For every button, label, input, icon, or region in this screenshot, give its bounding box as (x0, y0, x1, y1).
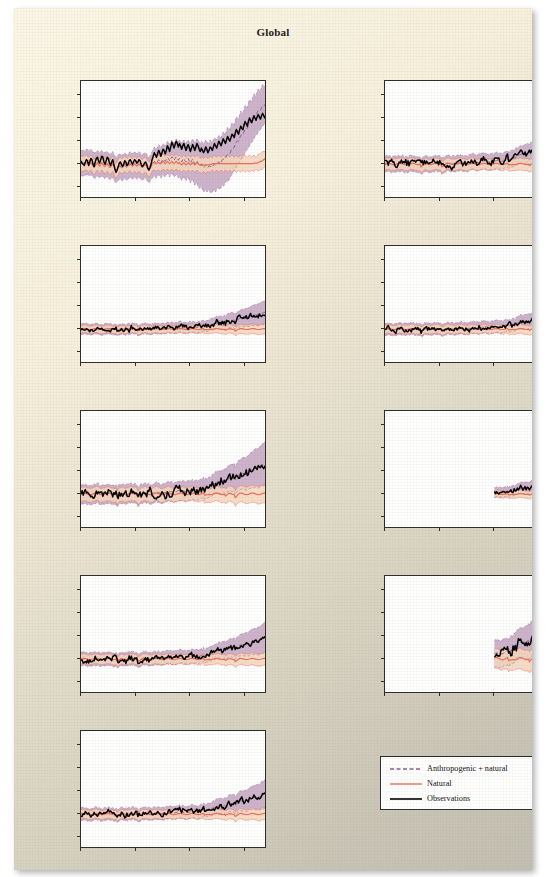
y-tick-mark (381, 658, 384, 659)
y-tick-mark (77, 282, 80, 283)
y-tick-mark (381, 351, 384, 352)
x-tick-mark (189, 528, 190, 531)
legend-swatch-solid (389, 779, 423, 788)
y-tick-mark (77, 351, 80, 352)
x-tick-mark (439, 528, 440, 531)
y-tick-mark (77, 447, 80, 448)
y-tick-mark (381, 305, 384, 306)
legend-label: Anthropogenic + natural (427, 764, 508, 773)
x-tick-mark (80, 198, 81, 201)
x-tick-mark (135, 198, 136, 201)
y-tick-mark (77, 305, 80, 306)
x-tick-mark (80, 848, 81, 851)
y-tick-mark (381, 163, 384, 164)
legend-label: Observations (427, 794, 470, 803)
plot-area (384, 575, 532, 693)
y-tick-mark (77, 516, 80, 517)
y-tick-mark (77, 681, 80, 682)
legend-swatch-dashed (389, 764, 423, 773)
y-tick-mark (77, 658, 80, 659)
x-tick-mark (493, 198, 494, 201)
x-tick-mark (244, 693, 245, 696)
anthropogenic-band (81, 81, 266, 193)
x-tick-mark (135, 848, 136, 851)
y-tick-mark (77, 493, 80, 494)
plot-area (80, 730, 266, 848)
panel-asia (338, 66, 532, 218)
y-tick-mark (381, 259, 384, 260)
panel-africa (34, 561, 272, 713)
panel-near-surface-air-temperature (34, 716, 272, 868)
y-tick-mark (381, 516, 384, 517)
x-tick-mark (384, 198, 385, 201)
y-tick-mark (381, 589, 384, 590)
y-tick-mark (381, 186, 384, 187)
x-tick-mark (189, 693, 190, 696)
y-tick-mark (381, 424, 384, 425)
panel-central-and-south-america (34, 231, 272, 383)
x-tick-mark (493, 693, 494, 696)
panel-australasia (338, 231, 532, 383)
y-tick-mark (381, 470, 384, 471)
panel-arctic (338, 561, 532, 713)
x-tick-mark (384, 363, 385, 366)
plot-area (384, 80, 532, 198)
x-tick-mark (244, 363, 245, 366)
y-tick-mark (77, 94, 80, 95)
legend: Anthropogenic + naturalNaturalObservatio… (380, 756, 532, 810)
panel-europe-and-north-africa (34, 396, 272, 548)
y-tick-mark (77, 470, 80, 471)
legend-item-natural: Natural (389, 779, 452, 788)
x-tick-mark (439, 363, 440, 366)
y-tick-mark (381, 635, 384, 636)
y-tick-mark (77, 813, 80, 814)
figure-page: Global Anthropogenic + naturalNaturalObs… (14, 8, 532, 870)
plot-area (80, 245, 266, 363)
y-tick-mark (381, 94, 384, 95)
x-tick-mark (493, 528, 494, 531)
figure-content: Global Anthropogenic + naturalNaturalObs… (14, 8, 532, 870)
y-tick-mark (77, 140, 80, 141)
plot-area (80, 410, 266, 528)
x-tick-mark (189, 848, 190, 851)
y-tick-mark (381, 282, 384, 283)
y-tick-mark (77, 328, 80, 329)
plot-area (384, 410, 532, 528)
x-tick-mark (80, 528, 81, 531)
y-tick-mark (381, 612, 384, 613)
plot-area (80, 80, 266, 198)
plot-area (384, 245, 532, 363)
legend-swatch-solid (389, 794, 423, 803)
x-tick-mark (384, 528, 385, 531)
y-tick-mark (381, 681, 384, 682)
x-tick-mark (493, 363, 494, 366)
legend-label: Natural (427, 779, 452, 788)
panel-north-america (34, 66, 272, 218)
x-tick-mark (135, 363, 136, 366)
x-tick-mark (80, 363, 81, 366)
y-tick-mark (77, 589, 80, 590)
y-tick-mark (381, 447, 384, 448)
y-tick-mark (77, 612, 80, 613)
y-tick-mark (77, 790, 80, 791)
x-tick-mark (384, 693, 385, 696)
y-tick-mark (77, 186, 80, 187)
x-tick-mark (439, 693, 440, 696)
y-tick-mark (77, 424, 80, 425)
x-tick-mark (135, 528, 136, 531)
x-tick-mark (244, 528, 245, 531)
x-tick-mark (80, 693, 81, 696)
y-tick-mark (381, 493, 384, 494)
x-tick-mark (244, 198, 245, 201)
y-tick-mark (77, 767, 80, 768)
legend-item-anthropogenic-natural: Anthropogenic + natural (389, 764, 508, 773)
legend-item-observations: Observations (389, 794, 470, 803)
x-tick-mark (244, 848, 245, 851)
y-tick-mark (77, 117, 80, 118)
x-tick-mark (189, 363, 190, 366)
y-tick-mark (77, 163, 80, 164)
panel-antarctic (338, 396, 532, 548)
y-tick-mark (77, 635, 80, 636)
y-tick-mark (381, 328, 384, 329)
y-tick-mark (381, 117, 384, 118)
